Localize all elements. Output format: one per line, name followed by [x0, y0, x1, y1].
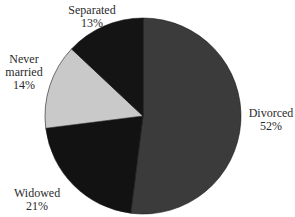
pie-slice-widowed: [46, 116, 143, 213]
label-widowed-pct: 21%: [14, 200, 60, 213]
label-separated-pct: 13%: [57, 17, 127, 30]
label-divorced-pct: 52%: [247, 120, 295, 133]
label-never-married: Never married 14%: [0, 53, 48, 92]
label-divorced: Divorced 52%: [247, 107, 295, 133]
label-widowed: Widowed 21%: [14, 187, 60, 213]
label-separated: Separated 13%: [57, 4, 127, 30]
pie-slice-divorced: [131, 18, 241, 214]
label-never-married-pct: 14%: [0, 79, 48, 92]
